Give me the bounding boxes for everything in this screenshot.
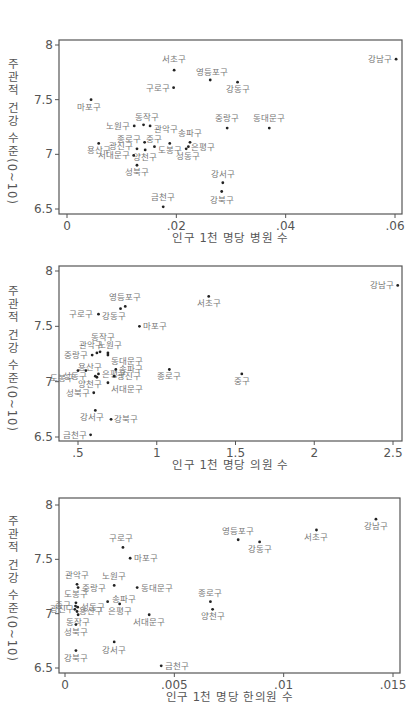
point-label: 구로구: [109, 533, 133, 543]
plot-area-oriental-clinics: 0.005.01.0156.577.58강남구서초구영등포구강동구구로구마포구노…: [0, 0, 418, 725]
data-point: 서대문구: [133, 613, 165, 626]
point-label: 도봉구: [64, 589, 88, 599]
point-label: 송파구: [112, 594, 136, 604]
point-label: 강서구: [102, 645, 126, 655]
point-label: 노원구: [102, 571, 126, 581]
data-point: 종로구: [198, 588, 222, 603]
point-label: 광진구: [50, 604, 74, 614]
data-point: 송파구: [106, 594, 135, 604]
data-point: 양천구: [201, 608, 225, 621]
point-label: 강남구: [364, 521, 388, 531]
data-point: 강북구: [64, 649, 88, 662]
x-axis-label: 인구 1천 명당 한의원 수: [59, 688, 400, 704]
data-point: 강서구: [102, 641, 126, 655]
point-label: 양천구: [201, 611, 225, 621]
data-point: 광진구: [50, 604, 76, 614]
data-point: 성동구: [76, 602, 104, 612]
point-label: 성동구: [81, 602, 105, 612]
point-label: 서초구: [304, 532, 328, 542]
point-label: 관악구: [65, 570, 89, 580]
point-label: 종로구: [198, 588, 222, 598]
y-axis-label: 주관적 건강 수준(0~10): [4, 515, 20, 662]
point-label: 영등포구: [222, 526, 254, 536]
data-point: 영등포구: [222, 526, 254, 541]
data-point: 은평구: [108, 602, 132, 615]
point-label: 금천구: [165, 661, 189, 671]
point-label: 강북구: [64, 653, 88, 663]
point-label: 은평구: [108, 606, 132, 616]
data-point: 강남구: [364, 518, 388, 531]
point-label: 서대문구: [133, 617, 165, 627]
point-label: 동작구: [66, 617, 90, 627]
data-point: 금천구: [160, 661, 189, 671]
data-point: 마포구: [129, 553, 158, 563]
data-point: 동대문구: [136, 583, 173, 593]
y-tick-label: 6.5: [34, 661, 53, 675]
scatter-chart-oriental-clinics: 0.005.01.0156.577.58강남구서초구영등포구강동구구로구마포구노…: [0, 0, 418, 725]
point-label: 마포구: [134, 553, 158, 563]
point-label: 강동구: [248, 544, 272, 554]
data-point: 구로구: [109, 533, 133, 548]
y-tick-label: 7.5: [34, 552, 53, 566]
data-point: 강동구: [248, 541, 272, 554]
point-label: 성북구: [64, 627, 88, 637]
point-label: 동대문구: [141, 583, 173, 593]
data-point: 서초구: [304, 529, 328, 542]
y-tick-label: 8: [45, 498, 53, 512]
